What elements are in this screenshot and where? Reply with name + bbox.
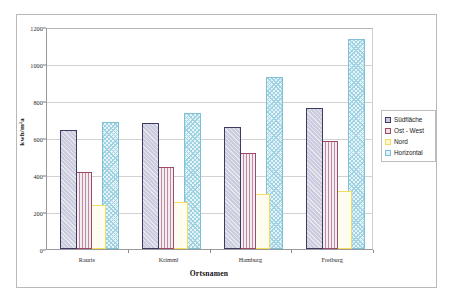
legend-label-horizontal: Horizontal (394, 149, 423, 156)
y-axis-tick-mark (43, 65, 46, 66)
bar-ost-west-rauris[interactable] (75, 172, 92, 249)
x-axis-tick-mark (128, 250, 129, 253)
bar-s-dfl-che-hamburg[interactable] (224, 127, 241, 249)
y-axis-tick-mark (43, 213, 46, 214)
y-axis-tick-label: 400 (33, 173, 43, 180)
y-axis-tick-mark (43, 176, 46, 177)
legend-label-ost-west: Ost - West (394, 127, 424, 134)
plot-area (46, 28, 373, 250)
legend-swatch-icon-ost-west (385, 128, 391, 134)
bar-s-dfl-che-krimml[interactable] (142, 123, 159, 249)
legend-item-horizontal[interactable]: Horizontal (385, 147, 432, 158)
chart-legend: Südfläche Ost - West Nord Horizontal (381, 110, 436, 162)
bar-ost-west-freiburg[interactable] (321, 141, 338, 249)
x-axis-category-label-krimml: Krimml (159, 256, 179, 263)
y-axis-tick-label: 800 (33, 99, 43, 106)
y-axis-tick-mark (43, 139, 46, 140)
y-axis-tick-label: 1200 (30, 25, 43, 32)
gridline (47, 28, 373, 29)
x-axis-category-label-rauris: Rauris (79, 256, 95, 263)
x-axis-category-label-hamburg: Hamburg (239, 256, 262, 263)
bar-ost-west-krimml[interactable] (157, 167, 174, 249)
gridline (47, 65, 373, 66)
x-axis-tick-mark (291, 250, 292, 253)
legend-swatch-icon-horizontal (385, 150, 391, 156)
bar-ost-west-hamburg[interactable] (239, 153, 256, 249)
legend-swatch-icon-sudflaeche (385, 117, 391, 123)
legend-item-ost-west[interactable]: Ost - West (385, 125, 432, 136)
y-axis-tick-mark (43, 28, 46, 29)
y-axis-tick-label: 200 (33, 210, 43, 217)
legend-label-sudflaeche: Südfläche (394, 116, 422, 123)
legend-swatch-icon-nord (385, 139, 391, 145)
legend-item-sudflaeche[interactable]: Südfläche (385, 114, 432, 125)
legend-label-nord: Nord (394, 138, 408, 145)
y-axis-tick-label: 600 (33, 136, 43, 143)
x-axis-tick-mark (210, 250, 211, 253)
x-axis-tick-mark (373, 250, 374, 253)
y-axis-title: kwh/m²a (18, 118, 26, 146)
y-axis-tick-mark (43, 102, 46, 103)
y-axis-tick-mark (43, 250, 46, 251)
legend-item-nord[interactable]: Nord (385, 136, 432, 147)
bar-s-dfl-che-freiburg[interactable] (306, 108, 323, 249)
gridline (47, 102, 373, 103)
bar-s-dfl-che-rauris[interactable] (60, 130, 77, 249)
x-axis-category-label-freiburg: Freiburg (322, 256, 343, 263)
y-axis-tick-label: 1000 (30, 62, 43, 69)
x-axis-title: Ortsnamen (190, 269, 229, 278)
